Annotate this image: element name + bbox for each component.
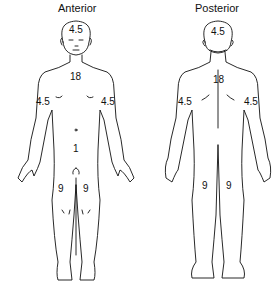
anterior-trunk-label: 18	[70, 72, 81, 82]
anterior-left-arm-label: 4.5	[101, 97, 115, 107]
body-figures	[0, 0, 277, 295]
anterior-right-leg-label: 9	[58, 184, 64, 194]
posterior-figure	[165, 21, 270, 278]
posterior-left-arm-label: 4.5	[178, 97, 192, 107]
posterior-trunk-label: 18	[213, 75, 224, 85]
posterior-right-leg-label: 9	[226, 181, 232, 191]
posterior-right-arm-label: 4.5	[244, 97, 258, 107]
posterior-head-label: 4.5	[211, 27, 225, 37]
anterior-head-label: 4.5	[69, 25, 83, 35]
anterior-genitalia-label: 1	[73, 144, 79, 154]
posterior-left-leg-label: 9	[202, 181, 208, 191]
posterior-title: Posterior	[195, 2, 239, 14]
anterior-left-leg-label: 9	[83, 184, 89, 194]
anterior-right-arm-label: 4.5	[36, 97, 50, 107]
anterior-title: Anterior	[58, 2, 97, 14]
